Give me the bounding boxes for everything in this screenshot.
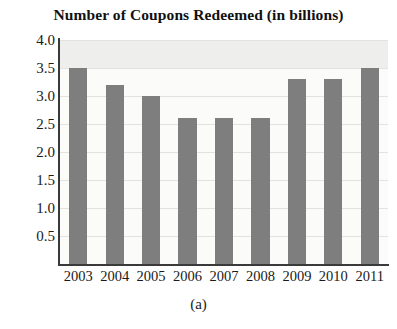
x-axis-tick-label: 2005 (133, 269, 169, 284)
y-axis-tick-label: 3.0 (0, 89, 55, 104)
bar (288, 79, 306, 264)
y-axis-tick-label: 0.5 (0, 229, 55, 244)
bar (251, 118, 269, 264)
bars-layer (60, 40, 388, 264)
y-axis-tick-label: 1.0 (0, 201, 55, 216)
x-axis-tick-label: 2007 (206, 269, 242, 284)
chart-title: Number of Coupons Redeemed (in billions) (0, 6, 397, 24)
x-axis-tick-label: 2004 (96, 269, 132, 284)
bar (361, 68, 379, 264)
x-axis-tick-label: 2008 (242, 269, 278, 284)
y-axis-tick-label: 2.5 (0, 117, 55, 132)
bar (178, 118, 196, 264)
bar (324, 79, 342, 264)
bar (215, 118, 233, 264)
y-axis-tick-label: 1.5 (0, 173, 55, 188)
figure-caption: (a) (0, 296, 397, 313)
y-axis-tick-labels: 4.03.53.02.52.01.51.00.5 (0, 0, 55, 329)
x-axis-tick-label: 2011 (352, 269, 388, 284)
x-axis-tick-label: 2009 (279, 269, 315, 284)
bar (106, 85, 124, 264)
x-axis-line (58, 264, 389, 266)
y-axis-tick-label: 3.5 (0, 61, 55, 76)
y-axis-tick-label: 4.0 (0, 33, 55, 48)
x-axis-tick-label: 2006 (169, 269, 205, 284)
y-axis-tick-label: 2.0 (0, 145, 55, 160)
x-axis-tick-label: 2003 (60, 269, 96, 284)
x-axis-tick-label: 2010 (315, 269, 351, 284)
bar (69, 68, 87, 264)
x-axis-tick-labels: 200320042005200620072008200920102011 (60, 269, 388, 289)
bar (142, 96, 160, 264)
bar-chart-figure: Number of Coupons Redeemed (in billions)… (0, 0, 397, 329)
